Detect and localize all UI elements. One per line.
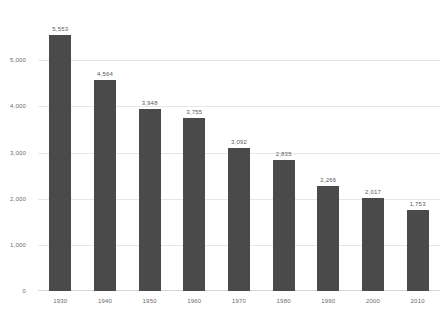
bar[interactable] — [273, 160, 295, 291]
bar-slot: 3,0921970 — [228, 14, 250, 291]
bar-value-label: 5,553 — [52, 26, 68, 32]
bar-value-label: 2,835 — [276, 151, 292, 157]
y-axis-tick-label: 1,000 — [0, 242, 26, 248]
x-axis-category-label: 1970 — [232, 298, 246, 304]
bar-value-label: 4,564 — [97, 71, 113, 77]
bar[interactable] — [49, 35, 71, 291]
x-axis-category-label: 1960 — [187, 298, 201, 304]
bar-chart: 01,0002,0003,0004,0005,000 5,55319304,56… — [0, 0, 448, 319]
y-axis-tick-label: 2,000 — [0, 196, 26, 202]
x-axis-category-label: 2000 — [366, 298, 380, 304]
y-axis-tick-label: 5,000 — [0, 57, 26, 63]
bar-slot: 4,5641940 — [94, 14, 116, 291]
bar-value-label: 1,753 — [410, 201, 426, 207]
x-axis-category-label: 1980 — [277, 298, 291, 304]
bar-value-label: 3,948 — [142, 100, 158, 106]
y-axis-tick-label: 4,000 — [0, 103, 26, 109]
bar-slot: 2,8351980 — [273, 14, 295, 291]
x-axis-category-label: 1990 — [321, 298, 335, 304]
bar[interactable] — [407, 210, 429, 291]
bar[interactable] — [362, 198, 384, 291]
bar-slot: 5,5531930 — [49, 14, 71, 291]
bar[interactable] — [228, 148, 250, 291]
y-axis-tick-label: 0 — [0, 288, 26, 294]
bar-value-label: 3,755 — [186, 109, 202, 115]
plot-area: 01,0002,0003,0004,0005,000 5,55319304,56… — [38, 14, 440, 291]
bar[interactable] — [317, 186, 339, 291]
x-axis-category-label: 1950 — [143, 298, 157, 304]
bar-slot: 3,9481950 — [139, 14, 161, 291]
bar-slot: 2,2661990 — [317, 14, 339, 291]
bar[interactable] — [183, 118, 205, 291]
bar-slot: 1,7532010 — [407, 14, 429, 291]
x-axis-category-label: 2010 — [411, 298, 425, 304]
bar-slot: 2,0172000 — [362, 14, 384, 291]
bars-group: 5,55319304,56419403,94819503,75519603,09… — [38, 14, 440, 291]
bar-value-label: 3,092 — [231, 139, 247, 145]
y-axis-tick-label: 3,000 — [0, 150, 26, 156]
bar-value-label: 2,266 — [320, 177, 336, 183]
x-axis-category-label: 1940 — [98, 298, 112, 304]
bar-value-label: 2,017 — [365, 189, 381, 195]
x-axis-category-label: 1930 — [53, 298, 67, 304]
bar[interactable] — [139, 109, 161, 291]
bar-slot: 3,7551960 — [183, 14, 205, 291]
bar[interactable] — [94, 80, 116, 291]
